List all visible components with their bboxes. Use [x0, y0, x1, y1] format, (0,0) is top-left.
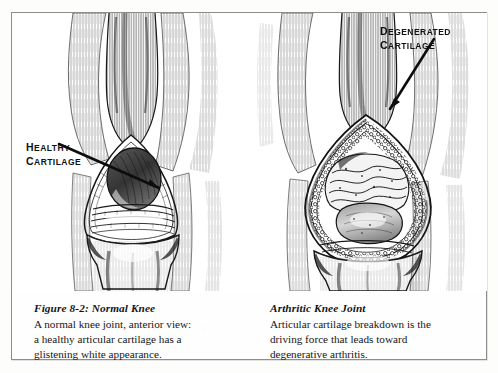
- arthritic-knee-illustration: [250, 13, 487, 291]
- caption-normal-knee-body: A normal knee joint, anterior view: a he…: [34, 317, 239, 363]
- callout-degenerated-cartilage-line1: DEGENERATED: [380, 25, 451, 39]
- caption-line: Articular cartilage breakdown is the: [270, 317, 485, 332]
- callout-degenerated-cartilage-line2: CARTILAGE: [380, 39, 451, 53]
- callout-degenerated-cartilage: DEGENERATED CARTILAGE: [380, 25, 451, 53]
- caption-normal-knee: Figure 8-2: Normal Knee A normal knee jo…: [34, 301, 239, 362]
- caption-arthritic-knee-body: Articular cartilage breakdown is the dri…: [270, 317, 485, 363]
- caption-line: A normal knee joint, anterior view:: [34, 317, 239, 332]
- callout-healthy-cartilage: HEALTHY CARTILAGE: [26, 141, 81, 169]
- figure-page: HEALTHY CARTILAGE DEGENERATED CARTILAGE …: [0, 0, 498, 373]
- caption-line: glistening white appearance.: [34, 347, 239, 362]
- figure-frame: HEALTHY CARTILAGE DEGENERATED CARTILAGE …: [11, 12, 487, 360]
- caption-line: driving force that leads toward: [270, 332, 485, 347]
- caption-arthritic-knee-title: Arthritic Knee Joint: [270, 301, 485, 316]
- caption-arthritic-knee: Arthritic Knee Joint Articular cartilage…: [270, 301, 485, 362]
- callout-healthy-cartilage-line2: CARTILAGE: [26, 155, 81, 169]
- caption-line: degenerative arthritis.: [270, 347, 485, 362]
- callout-healthy-cartilage-line1: HEALTHY: [26, 141, 81, 155]
- caption-normal-knee-title: Figure 8-2: Normal Knee: [34, 301, 239, 316]
- caption-line: a healthy articular cartilage has a: [34, 332, 239, 347]
